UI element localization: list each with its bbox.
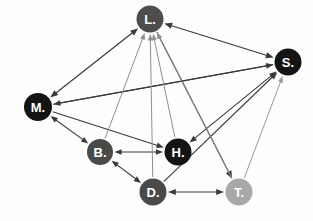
node-t[interactable]: T. bbox=[226, 179, 253, 206]
edge-b-d bbox=[112, 161, 141, 183]
edge-line bbox=[169, 25, 268, 56]
node-m[interactable]: M. bbox=[24, 93, 52, 121]
node-label-b: B. bbox=[94, 145, 107, 160]
arrowhead bbox=[140, 33, 145, 40]
arrowhead bbox=[156, 142, 164, 147]
arrowhead bbox=[81, 137, 88, 144]
node-label-s: S. bbox=[282, 55, 294, 70]
arrowhead bbox=[278, 76, 283, 83]
node-d[interactable]: D. bbox=[140, 179, 167, 206]
edge-line bbox=[193, 75, 272, 140]
arrowhead bbox=[152, 34, 157, 41]
arrowhead bbox=[164, 23, 172, 29]
arrowhead bbox=[53, 100, 61, 106]
network-diagram: L.S.M.B.H.D.T. bbox=[0, 0, 313, 221]
node-label-h: H. bbox=[172, 145, 185, 160]
edge-s-m bbox=[53, 65, 273, 106]
edge-line bbox=[58, 65, 273, 104]
node-h[interactable]: H. bbox=[165, 139, 192, 166]
edge-d-s bbox=[164, 72, 277, 181]
edge-line bbox=[115, 164, 137, 180]
arrowhead bbox=[134, 176, 141, 183]
edge-b-h bbox=[115, 149, 164, 155]
node-label-m: M. bbox=[31, 100, 45, 115]
node-s[interactable]: S. bbox=[275, 49, 302, 76]
arrowhead bbox=[112, 161, 119, 168]
arrowhead bbox=[115, 149, 122, 155]
edge-m-b bbox=[51, 116, 89, 143]
node-label-d: D. bbox=[147, 185, 160, 200]
edge-line bbox=[54, 32, 134, 95]
node-label-l: L. bbox=[144, 12, 156, 27]
edge-line bbox=[154, 38, 175, 137]
edge-line bbox=[150, 38, 152, 177]
node-label-t: T. bbox=[234, 185, 244, 200]
arrowhead bbox=[265, 52, 273, 58]
node-b[interactable]: B. bbox=[87, 139, 113, 165]
node-l[interactable]: L. bbox=[137, 6, 164, 33]
edge-line bbox=[164, 76, 274, 182]
arrowhead bbox=[50, 90, 58, 97]
edge-d-t bbox=[168, 189, 224, 195]
edge-d-l bbox=[148, 34, 153, 177]
edges-layer bbox=[50, 23, 283, 195]
edge-h-s bbox=[190, 71, 277, 142]
nodes-layer: L.S.M.B.H.D.T. bbox=[24, 6, 302, 206]
graph-canvas: L.S.M.B.H.D.T. bbox=[0, 0, 313, 221]
edge-line bbox=[244, 80, 281, 178]
arrowhead bbox=[156, 149, 163, 155]
edge-m-l bbox=[50, 28, 138, 97]
arrowhead bbox=[168, 189, 176, 195]
edge-t-s bbox=[244, 76, 283, 178]
edge-line bbox=[105, 37, 143, 138]
arrowhead bbox=[216, 189, 224, 195]
edge-l-s bbox=[164, 23, 273, 58]
arrowhead bbox=[130, 28, 138, 35]
arrowhead bbox=[51, 116, 58, 123]
arrowhead bbox=[157, 32, 162, 39]
edge-line bbox=[54, 119, 84, 141]
